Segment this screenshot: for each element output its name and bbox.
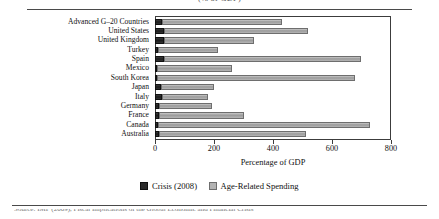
bar-segment-crisis: [155, 56, 164, 62]
bar-segment-age-related: [162, 19, 282, 25]
x-tick-label: 200: [208, 144, 220, 153]
bar-segment-age-related: [157, 75, 355, 81]
category-label: Australia: [10, 131, 152, 137]
bar-row: [155, 84, 391, 90]
bar-row: [155, 65, 391, 71]
category-label: United States: [10, 28, 152, 34]
legend-label-crisis: Crisis (2008): [152, 181, 197, 191]
x-tick: [332, 140, 333, 144]
category-label: Advanced G–20 Countries: [10, 19, 152, 25]
bar-row: [155, 37, 391, 43]
bar-segment-age-related: [159, 103, 212, 109]
category-label: Canada: [10, 122, 152, 128]
bar-segment-crisis: [155, 94, 162, 100]
category-axis-labels: Advanced G–20 CountriesUnited StatesUnit…: [10, 16, 152, 140]
bar-segment-age-related: [159, 112, 245, 118]
x-tick: [155, 140, 156, 144]
category-label: Japan: [10, 84, 152, 90]
legend-label-age-related: Age-Related Spending: [221, 181, 299, 191]
bar-segment-age-related: [164, 37, 254, 43]
bar-row: [155, 75, 391, 81]
category-label: France: [10, 112, 152, 118]
x-axis-tick-labels: 0200400600800: [155, 144, 391, 156]
age-swatch-icon: [209, 182, 217, 190]
bar-row: [155, 112, 391, 118]
legend-item-crisis: Crisis (2008): [140, 181, 197, 191]
bar-segment-age-related: [158, 47, 217, 53]
bar-row: [155, 47, 391, 53]
bar-row: [155, 103, 391, 109]
bar-row: [155, 122, 391, 128]
source-note: Source: IMF (2009), Fiscal Implications …: [14, 209, 254, 213]
bar-row: [155, 28, 391, 34]
category-label: Italy: [10, 94, 152, 100]
chart-legend: Crisis (2008) Age-Related Spending: [0, 181, 439, 191]
x-tick: [273, 140, 274, 144]
x-tick-label: 600: [326, 144, 338, 153]
x-tick-label: 400: [267, 144, 279, 153]
bar-segment-crisis: [155, 19, 162, 25]
category-label: Germany: [10, 103, 152, 109]
bar-segment-age-related: [157, 65, 232, 71]
bar-row: [155, 19, 391, 25]
bar-row: [155, 56, 391, 62]
category-label: United Kingdom: [10, 37, 152, 43]
bar-segment-age-related: [162, 94, 208, 100]
x-tick-label: 800: [385, 144, 397, 153]
chart-title: (% of GDP): [0, 0, 439, 3]
bar-row: [155, 131, 391, 137]
category-label: South Korea: [10, 75, 152, 81]
bar-segment-age-related: [159, 131, 307, 137]
bar-segment-age-related: [164, 56, 360, 62]
bottom-rule: [12, 205, 427, 206]
x-tick-label: 0: [153, 144, 157, 153]
figure-container: (% of GDP) Advanced G–20 CountriesUnited…: [0, 0, 439, 219]
bar-segment-age-related: [161, 84, 213, 90]
bar-segment-age-related: [164, 28, 308, 34]
bars-group: [155, 16, 391, 140]
x-axis-title: Percentage of GDP: [155, 158, 391, 167]
category-label: Mexico: [10, 65, 152, 71]
bar-row: [155, 94, 391, 100]
x-tick: [214, 140, 215, 144]
top-rule: [27, 9, 412, 10]
bar-segment-crisis: [155, 37, 164, 43]
category-label: Turkey: [10, 47, 152, 53]
crisis-swatch-icon: [140, 182, 148, 190]
bar-segment-crisis: [155, 28, 164, 34]
bar-segment-age-related: [158, 122, 370, 128]
category-label: Spain: [10, 56, 152, 62]
footer-clipped: Source: IMF (2009), Fiscal Implications …: [0, 209, 439, 219]
x-tick: [391, 140, 392, 144]
legend-item-age-related: Age-Related Spending: [209, 181, 299, 191]
